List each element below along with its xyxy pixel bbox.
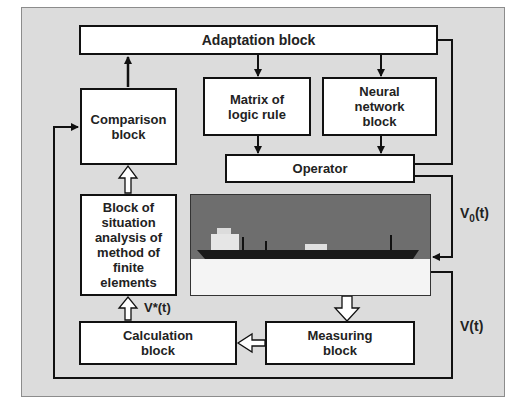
signal-v0-base: V bbox=[460, 205, 469, 221]
signal-v0-label: V0(t) bbox=[460, 205, 489, 224]
adaptation-block: Adaptation block bbox=[79, 25, 438, 55]
signal-v-label: V(t) bbox=[460, 318, 483, 334]
comparison-block-label: Comparison block bbox=[89, 112, 169, 142]
matrix-block-label: Matrix of logic rule bbox=[222, 92, 292, 122]
ship-icon bbox=[191, 195, 431, 296]
ship-image bbox=[190, 194, 431, 296]
calculation-block-label: Calculation block bbox=[118, 328, 198, 358]
measuring-block-label: Measuring block bbox=[300, 328, 380, 358]
signal-v0-suffix: (t) bbox=[475, 205, 489, 221]
adaptation-block-label: Adaptation block bbox=[202, 33, 316, 48]
neural-block-label: Neural network block bbox=[345, 84, 415, 129]
operator-block-label: Operator bbox=[293, 161, 348, 176]
operator-block: Operator bbox=[225, 154, 415, 183]
signal-vstar-label: V*(t) bbox=[144, 300, 171, 315]
measuring-block: Measuring block bbox=[265, 321, 415, 365]
situation-analysis-block: Block of situation analysis of method of… bbox=[80, 194, 177, 296]
comparison-block: Comparison block bbox=[80, 88, 177, 165]
matrix-logic-rule-block: Matrix of logic rule bbox=[203, 77, 311, 136]
calculation-block: Calculation block bbox=[79, 321, 237, 365]
neural-network-block: Neural network block bbox=[322, 77, 437, 136]
situation-block-label: Block of situation analysis of method of… bbox=[85, 200, 173, 290]
